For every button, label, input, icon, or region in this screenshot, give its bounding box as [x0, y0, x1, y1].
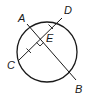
label-b: B — [75, 83, 82, 94]
label-d: D — [64, 4, 72, 16]
label-c: C — [7, 59, 15, 71]
label-a: A — [17, 12, 25, 24]
circle — [17, 22, 77, 82]
right-angle-marker — [37, 42, 44, 46]
label-e: E — [46, 32, 54, 44]
chord-cd — [18, 18, 62, 61]
circle-chords-diagram: A D E C B — [0, 0, 91, 94]
